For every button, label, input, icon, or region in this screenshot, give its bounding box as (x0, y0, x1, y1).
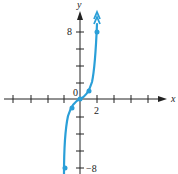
cubic-function-graph: x 2 y 8 −8 0 (0, 0, 178, 174)
x-tick-label-2: 2 (94, 105, 99, 116)
point-1-1 (87, 89, 92, 94)
x-axis: x 2 (4, 93, 176, 116)
x-axis-label: x (170, 93, 176, 104)
point-0-0 (78, 97, 83, 102)
point-2-8 (95, 30, 100, 35)
point-neg1-neg1 (70, 106, 75, 111)
origin-label: 0 (73, 87, 78, 98)
y-axis-arrow-icon (77, 11, 83, 20)
data-points (63, 30, 100, 171)
y-tick-label-8: 8 (67, 26, 72, 37)
x-axis-arrow-icon (158, 96, 167, 102)
y-tick-label-neg8: −8 (86, 163, 97, 174)
y-axis-label: y (76, 0, 82, 10)
y-axis: y 8 −8 0 (67, 0, 97, 174)
point-neg2-neg8 (63, 166, 68, 171)
